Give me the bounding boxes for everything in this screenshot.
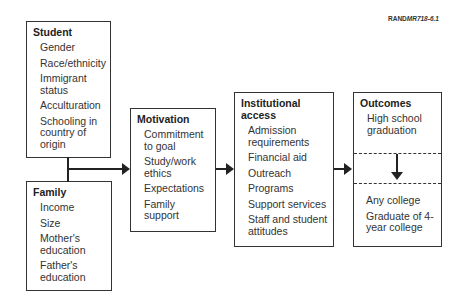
arrow-down-icon: [391, 172, 403, 180]
institutional-item: Support services: [248, 199, 328, 211]
institutional-item: Financial aid: [248, 152, 328, 164]
institutional-access-box: Institutional access Admission requireme…: [234, 92, 334, 247]
motivation-item: Expectations: [144, 183, 210, 195]
family-item: Income: [40, 202, 106, 214]
arrow-right-icon: [122, 163, 130, 175]
institutional-item: Programs: [248, 183, 328, 195]
student-item: Schooling in country of origin: [40, 116, 106, 151]
outcomes-title: Outcomes: [360, 97, 436, 109]
institutional-item: Admission requirements: [248, 125, 328, 148]
outcomes-item: Graduate of 4-year college: [366, 211, 436, 234]
institutional-item: Outreach: [248, 168, 328, 180]
family-title: Family: [33, 186, 106, 198]
institutional-item: Staff and student attitudes: [248, 214, 332, 237]
motivation-item: Study/work ethics: [144, 156, 202, 179]
motivation-title: Motivation: [137, 113, 210, 125]
family-item: Size: [40, 218, 106, 230]
arrow-right-icon: [226, 163, 234, 175]
institutional-title: Institutional access: [241, 97, 311, 121]
student-item: Immigrant status: [40, 73, 100, 96]
connector-vertical: [396, 154, 398, 174]
student-item: Gender: [40, 42, 105, 54]
student-item: Race/ethnicity: [40, 58, 105, 70]
family-box: Family Income Size Mother's education Fa…: [26, 181, 112, 291]
student-item: Acculturation: [40, 100, 105, 112]
outcomes-bottom: Any college Graduate of 4-year college: [359, 193, 439, 234]
figure-id-prefix: RAND: [388, 15, 407, 22]
outcomes-divider: [354, 183, 441, 184]
motivation-item: Commitment to goal: [144, 129, 208, 152]
connector-horizontal: [68, 168, 123, 170]
outcomes-item: Any college: [366, 195, 439, 207]
family-item: Mother's education: [40, 233, 95, 256]
motivation-box: Motivation Commitment to goal Study/work…: [130, 108, 216, 232]
arrow-right-icon: [344, 163, 352, 175]
student-title: Student: [33, 26, 105, 38]
motivation-item: Family support: [144, 199, 194, 222]
family-item: Father's education: [40, 260, 95, 283]
outcomes-item: High school graduation: [367, 113, 427, 136]
figure-id-suffix: MR718-6.1: [407, 15, 439, 22]
student-box: Student Gender Race/ethnicity Immigrant …: [26, 21, 111, 158]
figure-id: RANDMR718-6.1: [388, 15, 439, 22]
